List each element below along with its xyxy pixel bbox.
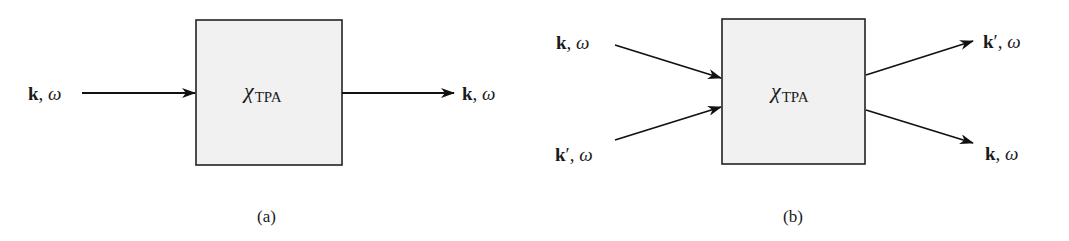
wavevector: k <box>985 143 996 164</box>
input-label-b-2: k′, ω <box>555 145 593 164</box>
output-arrow-b-2 <box>866 110 973 143</box>
caption-b: (b) <box>783 208 803 225</box>
frequency: ω <box>576 32 589 53</box>
frequency: ω <box>579 144 592 165</box>
chi-subscript: TPA <box>255 89 282 105</box>
input-arrow-b-1 <box>615 45 721 78</box>
separator: , <box>473 83 483 104</box>
wavevector: k <box>556 32 567 53</box>
separator: , <box>996 143 1006 164</box>
input-label-b-1: k, ω <box>556 33 590 52</box>
chi-tpa-label-a: χTPA <box>244 80 282 102</box>
output-label-a: k, ω <box>462 84 496 103</box>
chi-tpa-label-b: χTPA <box>771 80 809 102</box>
output-label-b-2: k, ω <box>985 144 1019 163</box>
separator: , <box>567 32 577 53</box>
chi-symbol: χ <box>244 78 254 103</box>
output-arrow-b-1 <box>866 41 973 75</box>
separator: , <box>39 83 49 104</box>
wavevector: k <box>462 83 473 104</box>
wavevector: k <box>983 31 994 52</box>
diagram-canvas <box>0 0 1069 241</box>
caption-a: (a) <box>257 208 276 225</box>
separator: , <box>998 31 1008 52</box>
input-arrow-b-2 <box>615 107 721 140</box>
frequency: ω <box>482 83 495 104</box>
chi-subscript: TPA <box>782 89 809 105</box>
input-label-a: k, ω <box>28 84 62 103</box>
wavevector: k <box>28 83 39 104</box>
separator: , <box>570 144 580 165</box>
frequency: ω <box>48 83 61 104</box>
frequency: ω <box>1007 31 1020 52</box>
frequency: ω <box>1005 143 1018 164</box>
chi-symbol: χ <box>771 78 781 103</box>
wavevector: k <box>555 144 566 165</box>
output-label-b-1: k′, ω <box>983 32 1021 51</box>
